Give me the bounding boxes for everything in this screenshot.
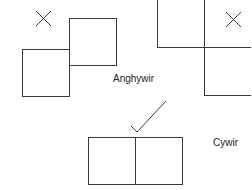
square-adjacency-diagram: Anghywir Cywir	[0, 0, 251, 190]
incorrect-example-right	[158, 0, 252, 96]
square-upper-right	[70, 19, 117, 66]
square-left	[89, 138, 136, 185]
correct-label: Cywir	[213, 138, 238, 148]
incorrect-example-left	[23, 11, 117, 97]
square-lower-right	[205, 48, 252, 96]
square-right	[136, 138, 183, 185]
cross-icon	[36, 11, 51, 26]
diagram-canvas	[0, 0, 251, 190]
check-icon	[131, 101, 166, 132]
square-upper-left	[158, 0, 205, 48]
incorrect-label: Anghywir	[113, 74, 154, 84]
square-lower-left	[23, 50, 70, 97]
cross-icon	[226, 12, 241, 27]
correct-example	[89, 101, 183, 185]
